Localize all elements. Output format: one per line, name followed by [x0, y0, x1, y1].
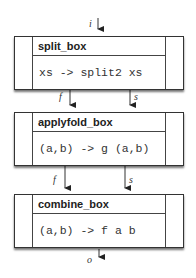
box-body: (a,b) -> f a b — [32, 215, 166, 247]
combine-box: combine_box (a,b) -> f a b — [14, 194, 184, 248]
right-column — [165, 113, 183, 165]
edge-label-s: s — [129, 174, 133, 185]
edge-label-f: f — [53, 174, 56, 185]
applyfold-box: applyfold_box (a,b) -> g (a,b) — [14, 112, 184, 166]
edge-label-s: s — [134, 91, 138, 102]
left-column — [15, 113, 33, 165]
edge-label-f: f — [59, 91, 62, 102]
split-box: split_box xs -> split2 xs — [14, 36, 184, 90]
box-body: (a,b) -> g (a,b) — [32, 133, 166, 165]
left-column — [15, 195, 33, 247]
box-title: applyfold_box — [32, 113, 166, 132]
right-column — [165, 195, 183, 247]
left-column — [15, 37, 33, 89]
input-label: i — [89, 18, 92, 29]
output-label: o — [87, 254, 92, 265]
box-title: combine_box — [32, 195, 166, 214]
box-body: xs -> split2 xs — [32, 57, 166, 89]
box-title: split_box — [32, 37, 166, 56]
right-column — [165, 37, 183, 89]
